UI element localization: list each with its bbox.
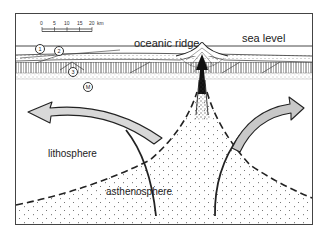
plate-motion-arrow-right xyxy=(232,97,304,152)
scale-unit-label: km xyxy=(97,21,104,26)
sea-level-label: sea level xyxy=(242,33,285,44)
layer-marker-moho: M xyxy=(83,82,93,92)
lithosphere-label: lithosphere xyxy=(48,149,97,159)
layer-marker-2: 2 xyxy=(54,46,64,56)
scale-bar xyxy=(42,27,92,32)
scale-tick-label: 15 xyxy=(77,21,83,26)
scale-tick-label: 5 xyxy=(53,21,56,26)
oceanic-ridge-label: oceanic ridge xyxy=(134,38,199,49)
scale-tick-label: 0 xyxy=(40,21,43,26)
layer-marker-1: 1 xyxy=(35,44,45,54)
plate-motion-arrow-left xyxy=(28,102,162,144)
layer-marker-3: 3 xyxy=(68,67,78,77)
asthenosphere-label: asthenosphere xyxy=(106,187,172,197)
scale-tick-label: 20 xyxy=(89,21,95,26)
scale-tick-label: 10 xyxy=(64,21,70,26)
